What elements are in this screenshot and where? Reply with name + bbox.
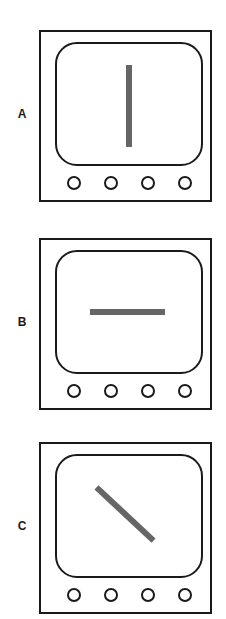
panel-label-b: B — [10, 316, 34, 328]
device-button-row-b — [55, 380, 203, 402]
device-button-b-2[interactable] — [104, 384, 118, 398]
device-button-row-c — [55, 584, 203, 606]
device-screen-c — [55, 454, 203, 578]
panel-label-c: C — [10, 520, 34, 532]
device-button-b-3[interactable] — [141, 384, 155, 398]
device-button-c-3[interactable] — [141, 588, 155, 602]
device-body-c — [39, 442, 212, 614]
device-button-row-a — [55, 172, 203, 194]
panel-b: B — [0, 208, 226, 414]
device-button-a-1[interactable] — [67, 176, 81, 190]
device-body-b — [39, 238, 212, 410]
panel-label-a: A — [10, 108, 34, 120]
device-button-c-4[interactable] — [178, 588, 192, 602]
stimulus-bar-diagonal — [94, 485, 155, 543]
stimulus-bar-vertical — [126, 65, 132, 147]
device-screen-a — [55, 42, 203, 166]
device-button-c-2[interactable] — [104, 588, 118, 602]
device-screen-b — [55, 250, 203, 374]
stimulus-bar-horizontal — [90, 309, 165, 315]
panel-c: C — [0, 412, 226, 619]
device-button-a-2[interactable] — [104, 176, 118, 190]
device-button-b-4[interactable] — [178, 384, 192, 398]
panel-a: A — [0, 0, 226, 210]
device-button-a-3[interactable] — [141, 176, 155, 190]
figure-panels-container: A B — [0, 0, 226, 619]
device-body-a — [39, 30, 212, 202]
device-button-c-1[interactable] — [67, 588, 81, 602]
device-button-a-4[interactable] — [178, 176, 192, 190]
device-button-b-1[interactable] — [67, 384, 81, 398]
